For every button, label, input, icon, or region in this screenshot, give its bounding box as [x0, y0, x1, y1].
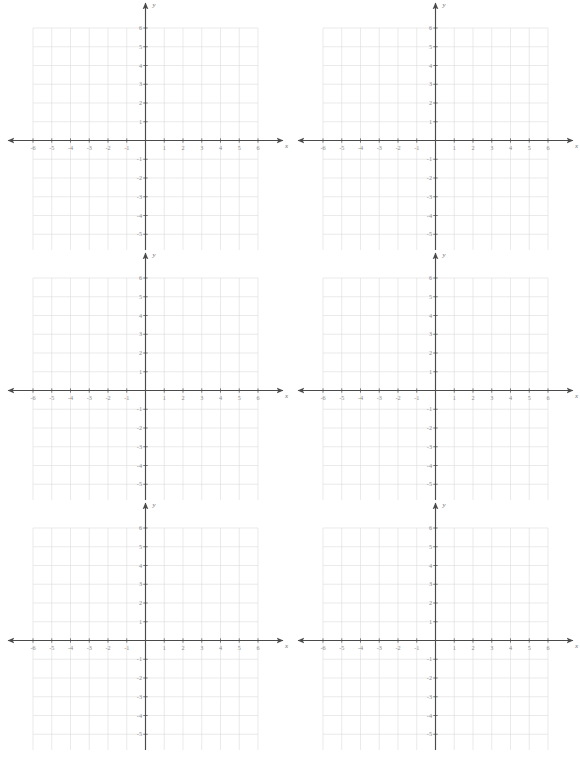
graph-canvas[interactable]: -6-5-4-3-2-1123456654321-1-2-3-4-5-6xy — [0, 250, 290, 500]
coordinate-graph-4[interactable]: -6-5-4-3-2-1123456654321-1-2-3-4-5-6xy — [290, 250, 580, 500]
axes — [8, 253, 283, 500]
x-axis-label: x — [284, 392, 289, 400]
x-tick-label: 6 — [256, 144, 259, 151]
y-tick-label: 3 — [429, 80, 432, 87]
x-tick-label: 5 — [238, 644, 241, 651]
x-tick-label: -1 — [414, 644, 419, 651]
y-tick-label: -3 — [427, 443, 432, 450]
x-tick-label: -3 — [87, 394, 92, 401]
coordinate-graph-1[interactable]: -6-5-4-3-2-1123456654321-1-2-3-4-5-6xy — [0, 0, 290, 250]
x-tick-label: -3 — [377, 644, 382, 651]
y-tick-label: -5 — [427, 230, 432, 237]
x-tick-label: 2 — [471, 644, 474, 651]
y-tick-label: -5 — [137, 730, 142, 737]
y-tick-label: -4 — [427, 462, 432, 469]
x-tick-label: -4 — [358, 644, 363, 651]
coordinate-graph-2[interactable]: -6-5-4-3-2-1123456654321-1-2-3-4-5-6xy — [290, 0, 580, 250]
x-tick-label: -6 — [30, 144, 35, 151]
y-tick-label: 5 — [139, 543, 142, 550]
x-tick-label: -1 — [414, 394, 419, 401]
y-tick-label: 5 — [429, 543, 432, 550]
y-tick-label: -4 — [427, 712, 432, 719]
y-tick-label: -2 — [427, 174, 432, 181]
y-tick-label: 1 — [429, 618, 432, 625]
y-tick-labels: 654321-1-2-3-4-5-6 — [427, 24, 432, 250]
x-tick-label: 6 — [256, 644, 259, 651]
x-tick-label: -6 — [320, 394, 325, 401]
x-tick-label: 3 — [200, 394, 203, 401]
y-axis-label: y — [442, 1, 447, 9]
y-axis-label: y — [442, 501, 447, 509]
x-tick-label: -2 — [105, 144, 110, 151]
y-tick-label: 6 — [139, 274, 142, 281]
x-tick-label: 3 — [490, 394, 493, 401]
y-tick-label: -1 — [137, 405, 142, 412]
x-tick-label: -5 — [49, 144, 54, 151]
graph-canvas[interactable]: -6-5-4-3-2-1123456654321-1-2-3-4-5-6xy — [0, 500, 290, 750]
x-tick-label: 5 — [528, 394, 531, 401]
y-tick-label: -3 — [137, 693, 142, 700]
coordinate-graph-6[interactable]: -6-5-4-3-2-1123456654321-1-2-3-4-5-6xy — [290, 500, 580, 750]
graph-canvas[interactable]: -6-5-4-3-2-1123456654321-1-2-3-4-5-6xy — [290, 250, 580, 500]
coordinate-graph-3[interactable]: -6-5-4-3-2-1123456654321-1-2-3-4-5-6xy — [0, 250, 290, 500]
x-tick-label: -5 — [49, 644, 54, 651]
y-tick-label: -2 — [137, 174, 142, 181]
y-tick-label: -6 — [137, 749, 142, 750]
x-tick-label: -6 — [30, 644, 35, 651]
x-tick-label: 4 — [219, 394, 222, 401]
y-tick-label: 5 — [139, 43, 142, 50]
x-tick-label: 1 — [453, 644, 456, 651]
y-tick-labels: 654321-1-2-3-4-5-6 — [137, 274, 142, 500]
x-axis-label: x — [574, 142, 579, 150]
x-tick-label: 5 — [528, 644, 531, 651]
x-axis-label: x — [574, 642, 579, 650]
graph-canvas[interactable]: -6-5-4-3-2-1123456654321-1-2-3-4-5-6xy — [0, 0, 290, 250]
y-axis-label: y — [152, 501, 157, 509]
y-tick-labels: 654321-1-2-3-4-5-6 — [427, 274, 432, 500]
x-tick-label: 4 — [509, 644, 512, 651]
x-tick-label: -4 — [68, 394, 73, 401]
y-tick-label: -2 — [427, 674, 432, 681]
x-tick-label: 2 — [181, 144, 184, 151]
x-tick-label: -3 — [87, 644, 92, 651]
y-tick-label: -2 — [137, 674, 142, 681]
x-tick-label: -2 — [105, 644, 110, 651]
x-tick-label: 4 — [509, 144, 512, 151]
y-tick-label: 5 — [429, 43, 432, 50]
y-tick-label: 6 — [429, 524, 432, 531]
graph-canvas[interactable]: -6-5-4-3-2-1123456654321-1-2-3-4-5-6xy — [290, 500, 580, 750]
graph-canvas[interactable]: -6-5-4-3-2-1123456654321-1-2-3-4-5-6xy — [290, 0, 580, 250]
y-tick-label: -5 — [137, 480, 142, 487]
axes — [298, 3, 573, 250]
x-tick-label: -1 — [124, 144, 129, 151]
x-tick-label: -3 — [377, 394, 382, 401]
x-tick-label: -1 — [124, 644, 129, 651]
y-tick-label: 3 — [139, 80, 142, 87]
x-tick-label: -3 — [87, 144, 92, 151]
y-tick-label: 1 — [429, 368, 432, 375]
x-tick-label: -4 — [358, 394, 363, 401]
x-tick-label: -2 — [395, 644, 400, 651]
x-tick-label: 4 — [509, 394, 512, 401]
y-tick-label: -1 — [137, 655, 142, 662]
y-axis-label: y — [152, 251, 157, 259]
x-tick-label: -5 — [49, 394, 54, 401]
x-tick-label: -4 — [68, 144, 73, 151]
y-tick-label: 3 — [429, 580, 432, 587]
coordinate-graph-5[interactable]: -6-5-4-3-2-1123456654321-1-2-3-4-5-6xy — [0, 500, 290, 750]
x-tick-label: 2 — [181, 644, 184, 651]
y-tick-label: 3 — [429, 330, 432, 337]
y-tick-label: 6 — [139, 24, 142, 31]
y-tick-label: -1 — [427, 405, 432, 412]
x-tick-label: 1 — [453, 144, 456, 151]
y-tick-label: 4 — [429, 62, 432, 69]
x-tick-label: 6 — [546, 394, 549, 401]
y-tick-label: -3 — [427, 193, 432, 200]
y-tick-label: -1 — [137, 155, 142, 162]
x-tick-label: -5 — [339, 394, 344, 401]
x-tick-label: 1 — [163, 394, 166, 401]
axes — [298, 503, 573, 750]
y-tick-label: 2 — [139, 349, 142, 356]
x-tick-label: 2 — [471, 144, 474, 151]
x-tick-label: 6 — [546, 144, 549, 151]
